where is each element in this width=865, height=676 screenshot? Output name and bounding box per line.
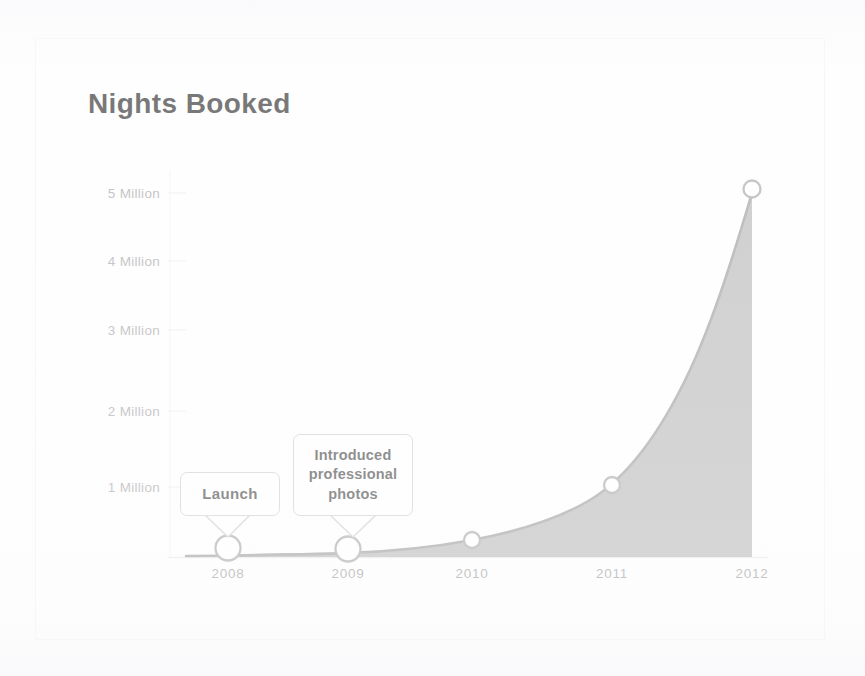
- chart-page: Nights Booked: [0, 0, 865, 676]
- annotation-callout-launch: Launch: [180, 472, 280, 516]
- annotation-callout-photos: Introduced professional photos: [293, 434, 413, 516]
- y-tick-label: 2 Million: [108, 404, 160, 419]
- annotation-label: Introduced professional photos: [299, 446, 407, 503]
- x-tick-2008: 2008: [211, 566, 244, 581]
- x-tick-2011: 2011: [596, 566, 628, 581]
- page-title: Nights Booked: [88, 88, 291, 120]
- y-tick-label: 1 Million: [108, 480, 160, 495]
- y-tick-label: 5 Million: [108, 186, 160, 201]
- x-tick-2012: 2012: [735, 566, 768, 581]
- x-tick-2009: 2009: [331, 566, 364, 581]
- x-tick-2010: 2010: [455, 566, 488, 581]
- y-tick-label: 3 Million: [108, 323, 160, 338]
- annotation-label: Launch: [202, 484, 258, 504]
- y-tick-label: 4 Million: [108, 254, 160, 269]
- chart-card: [35, 38, 825, 640]
